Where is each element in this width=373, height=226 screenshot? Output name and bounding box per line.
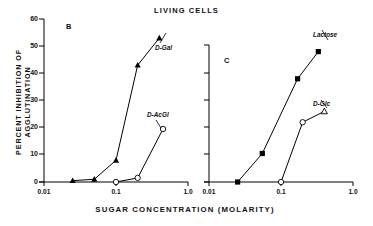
data-point (260, 151, 265, 156)
panel-b-axes (39, 19, 188, 186)
figure-container: LIVING CELLS PERCENT INHIBITION OF AGGLU… (0, 0, 373, 226)
data-point (235, 179, 240, 184)
data-point (156, 35, 162, 41)
series-lactose (235, 49, 321, 185)
series-d-glc (278, 108, 327, 185)
data-point (316, 49, 321, 54)
series-line (116, 129, 163, 182)
data-point (295, 76, 300, 81)
plot-canvas (0, 0, 373, 226)
series-layer (70, 35, 328, 185)
panel-c-axes (204, 45, 353, 186)
data-point (300, 120, 305, 125)
data-point (113, 157, 119, 163)
data-point (278, 179, 283, 184)
series-d-gal (70, 35, 163, 183)
data-point (160, 126, 165, 131)
data-point (321, 108, 327, 114)
data-point (113, 179, 118, 184)
annotation-leaders (156, 30, 328, 128)
series-d-acgl (113, 126, 165, 184)
series-line (238, 52, 319, 182)
data-point (135, 175, 140, 180)
